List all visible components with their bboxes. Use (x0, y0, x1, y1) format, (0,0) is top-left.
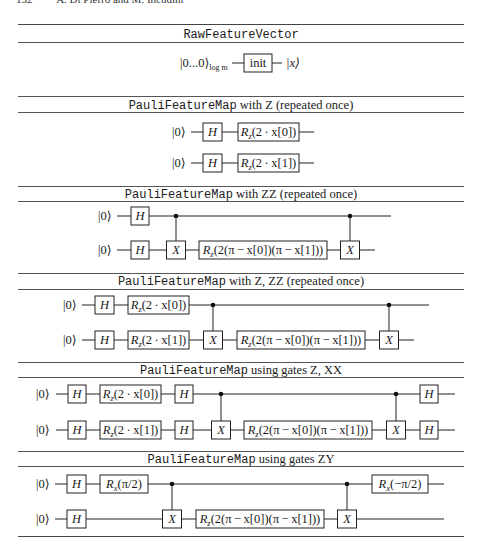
rotation-gate: Rz(2 · x[1]) (128, 331, 189, 349)
ket-input-state: |0⟩ (172, 156, 186, 170)
gate-label: H (71, 477, 82, 491)
gate-label: H (207, 156, 218, 170)
gate-label: H (71, 423, 82, 437)
gate-label: Rz(2(π − x[0])(π − x[1])) (199, 512, 321, 528)
gate-label: Rx(−π/2) (378, 477, 422, 493)
cnot-gate: X (167, 214, 186, 259)
ket-input-state: |0⟩ (36, 387, 50, 401)
rotation-gate: Rz(2(π − x[0])(π − x[1])) (237, 331, 365, 349)
ket-input-state: |0⟩ (63, 333, 77, 347)
circuit-raw-feature-vector: |0...0⟩log m|x⟩init (180, 54, 300, 72)
ket-input-state: |0⟩ (36, 477, 50, 491)
control-dot (348, 214, 353, 219)
gate-label: Rz(2(π − x[0])(π − x[1])) (240, 333, 362, 349)
target-x-label: X (391, 423, 401, 437)
ket-output-state: |x⟩ (286, 56, 300, 70)
ket-input-state: |0...0⟩log m (180, 56, 228, 72)
rotation-gate: Rz(2 · x[0]) (238, 123, 299, 141)
ket-input-state: |0⟩ (98, 209, 112, 223)
cnot-gate: X (212, 392, 231, 439)
hadamard-gate: H (420, 421, 438, 439)
gate-label: H (71, 512, 82, 526)
ket-input-state: |0⟩ (63, 298, 77, 312)
gate-label: H (99, 298, 110, 312)
hadamard-gate: H (203, 154, 222, 172)
gate-label: H (134, 209, 145, 223)
hadamard-gate: H (95, 331, 114, 349)
control-dot (211, 303, 216, 308)
cnot-gate: X (387, 392, 406, 439)
rotation-gate: Rz(2 · x[0]) (128, 296, 189, 314)
hadamard-gate: H (131, 241, 149, 259)
hadamard-gate: H (67, 475, 86, 493)
rotation-gate: Rz(2(π − x[0])(π − x[1])) (199, 241, 327, 259)
hadamard-gate: H (68, 421, 86, 439)
cnot-gate: X (204, 303, 223, 349)
gate-label: H (99, 333, 110, 347)
rotation-gate: Rz(2 · x[1]) (238, 154, 299, 172)
control-dot (174, 214, 179, 219)
hadamard-gate: H (175, 385, 193, 403)
target-x-label: X (345, 243, 355, 257)
rotation-gate: Rx(−π/2) (372, 475, 428, 493)
ket-input-state: |0⟩ (98, 243, 112, 257)
circuit-pauli-z: |0⟩|0⟩HRz(2 · x[0])HRz(2 · x[1]) (172, 123, 314, 172)
gate-label: Rz(2 · x[0]) (130, 298, 187, 314)
circuit-pauli-zz: |0⟩|0⟩HHRz(2(π − x[0])(π − x[1]))XX (98, 207, 391, 259)
gate-label: H (178, 387, 189, 401)
gate-label: Rx(π/2) (105, 477, 142, 493)
target-x-label: X (342, 512, 352, 526)
gate-label: H (178, 423, 189, 437)
target-x-label: X (171, 243, 181, 257)
hadamard-gate: H (131, 207, 149, 225)
gate-label: Rz(2(π − x[0])(π − x[1])) (247, 423, 369, 439)
target-x-label: X (384, 333, 394, 347)
gate-label: H (423, 423, 434, 437)
gate-label: H (71, 387, 82, 401)
target-x-label: X (167, 512, 177, 526)
circuit-pauli-zy: |0⟩|0⟩HRx(π/2)Rx(−π/2)HRz(2(π − x[0])(π … (36, 475, 444, 528)
hadamard-gate: H (67, 510, 86, 528)
target-x-label: X (216, 423, 226, 437)
target-x-label: X (208, 333, 218, 347)
gate-label: Rz(2 · x[0]) (240, 125, 297, 141)
gate-label: init (250, 56, 267, 70)
circuit-pauli-z-xx: |0⟩|0⟩HRz(2 · x[0])HHHRz(2 · x[1])HRz(2(… (36, 385, 455, 439)
hadamard-gate: H (68, 385, 86, 403)
control-dot (394, 392, 399, 397)
rotation-gate: Rz(2 · x[1]) (100, 421, 161, 439)
gate-label: Rz(2 · x[1]) (130, 333, 187, 349)
gate-label: H (207, 125, 218, 139)
gate-label: H (134, 243, 145, 257)
hadamard-gate: H (203, 123, 222, 141)
circuit-diagrams: |0...0⟩log m|x⟩init|0⟩|0⟩HRz(2 · x[0])HR… (0, 0, 485, 553)
rotation-gate: Rx(π/2) (100, 475, 148, 493)
hadamard-gate: H (420, 385, 438, 403)
control-dot (345, 482, 350, 487)
control-dot (387, 303, 392, 308)
control-dot (170, 482, 175, 487)
rotation-gate: Rz(2(π − x[0])(π − x[1])) (196, 510, 324, 528)
gate-label: Rz(2(π − x[0])(π − x[1])) (202, 243, 324, 259)
gate-label: Rz(2 · x[0]) (102, 387, 159, 403)
gate-label: Rz(2 · x[1]) (240, 156, 297, 172)
ket-input-state: |0⟩ (36, 512, 50, 526)
gate-label: Rz(2 · x[1]) (102, 423, 159, 439)
circuit-pauli-z-zz: |0⟩|0⟩HRz(2 · x[0])HRz(2 · x[1])Rz(2(π −… (63, 296, 429, 349)
gate-label: H (423, 387, 434, 401)
init-gate: init (244, 54, 272, 72)
rotation-gate: Rz(2(π − x[0])(π − x[1])) (244, 421, 372, 439)
ket-input-state: |0⟩ (36, 423, 50, 437)
ket-input-state: |0⟩ (172, 125, 186, 139)
hadamard-gate: H (95, 296, 114, 314)
cnot-gate: X (380, 303, 399, 349)
cnot-gate: X (341, 214, 360, 259)
control-dot (219, 392, 224, 397)
cnot-gate: X (163, 482, 182, 528)
rotation-gate: Rz(2 · x[0]) (100, 385, 161, 403)
hadamard-gate: H (175, 421, 193, 439)
cnot-gate: X (338, 482, 357, 528)
